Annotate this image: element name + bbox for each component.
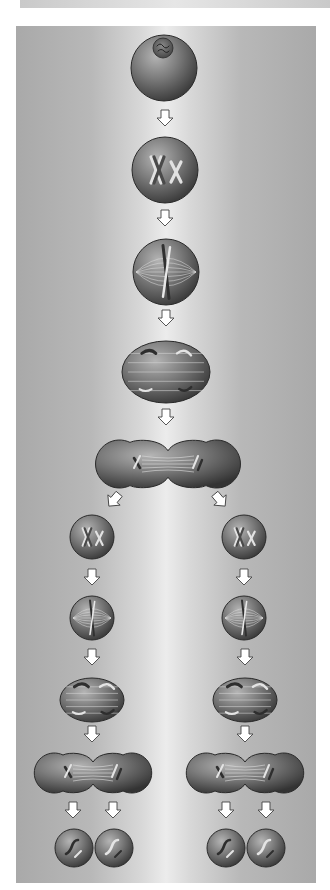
arrow-down-left-icon bbox=[103, 489, 126, 512]
arrow-down-right-icon bbox=[209, 489, 232, 512]
arrow-down-icon bbox=[84, 569, 100, 585]
cell-daughter-cell-2 bbox=[95, 829, 133, 867]
cell-group bbox=[34, 35, 303, 867]
arrow-down-icon bbox=[236, 569, 252, 585]
cell-prophase-ii-left bbox=[70, 515, 114, 559]
cell-daughter-cell-1 bbox=[55, 829, 93, 867]
cell-prophase-i bbox=[132, 137, 198, 203]
arrow-down-icon bbox=[84, 726, 100, 742]
arrow-down-icon bbox=[65, 802, 81, 818]
arrow-down-icon bbox=[84, 649, 100, 665]
arrow-down-icon bbox=[237, 726, 253, 742]
cell-prophase-ii-right bbox=[222, 515, 266, 559]
meiosis-diagram bbox=[0, 0, 330, 890]
arrow-down-icon bbox=[237, 649, 253, 665]
arrow-down-icon bbox=[258, 802, 274, 818]
arrow-down-icon bbox=[157, 210, 173, 226]
cell-daughter-cell-3 bbox=[207, 829, 245, 867]
cell-daughter-cell-4 bbox=[247, 829, 285, 867]
arrow-down-icon bbox=[218, 802, 234, 818]
nucleus bbox=[153, 38, 173, 58]
arrow-down-icon bbox=[158, 310, 174, 326]
arrow-down-icon bbox=[105, 802, 121, 818]
arrow-down-icon bbox=[157, 110, 173, 126]
arrow-down-icon bbox=[158, 409, 174, 425]
